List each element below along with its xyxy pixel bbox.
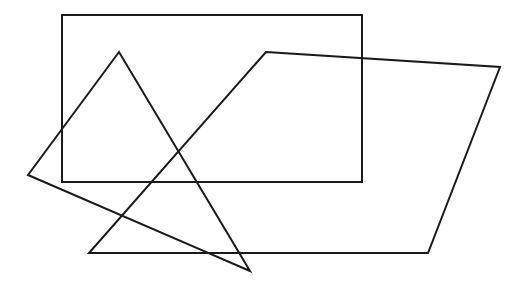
- rectangle-shape: [62, 15, 362, 182]
- shapes-svg: [0, 0, 523, 289]
- diagram-canvas: [0, 0, 523, 289]
- quadrilateral-shape: [89, 52, 500, 253]
